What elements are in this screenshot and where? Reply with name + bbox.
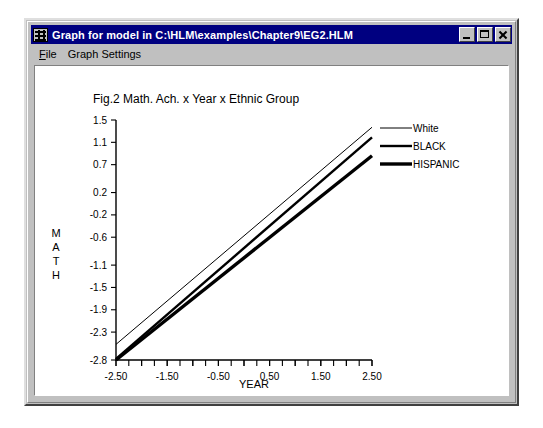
- chart: Fig.2 Math. Ach. x Year x Ethnic Group M…: [35, 66, 508, 395]
- y-tick-label: -1.9: [90, 304, 108, 315]
- series-line-white: [116, 127, 372, 344]
- window-inner-frame: Graph for model in C:\HLM\examples\Chapt…: [27, 21, 516, 403]
- graph-window: Graph for model in C:\HLM\examples\Chapt…: [24, 18, 519, 406]
- y-tick-label: -2.3: [90, 327, 108, 338]
- y-tick-label: 0.7: [93, 159, 107, 170]
- y-tick-label: -1.1: [90, 260, 108, 271]
- x-tick-label: -0.50: [207, 371, 230, 382]
- x-tick-label: 1.50: [311, 371, 331, 382]
- legend-label-black: BLACK: [413, 141, 446, 152]
- y-tick-label: -0.6: [90, 232, 108, 243]
- series-lines: [116, 127, 372, 360]
- window-title: Graph for model in C:\HLM\examples\Chapt…: [52, 29, 459, 41]
- series-line-black: [116, 137, 372, 359]
- chart-grid-icon: [33, 28, 48, 42]
- x-axis-title: YEAR: [239, 378, 269, 390]
- series-line-hispanic: [116, 156, 372, 360]
- y-tick-label: -2.8: [90, 355, 108, 366]
- x-tick-label: -1.50: [156, 371, 179, 382]
- axes: [116, 120, 372, 360]
- y-tick-label: 1.1: [93, 137, 107, 148]
- maximize-button[interactable]: [477, 27, 493, 42]
- menu-bar: File Graph Settings: [31, 45, 512, 63]
- legend-label-white: White: [413, 123, 439, 134]
- legend-label-hispanic: HISPANIC: [413, 159, 460, 170]
- minimize-icon: [463, 37, 470, 39]
- x-tick-label: -2.50: [105, 371, 128, 382]
- legend: WhiteBLACKHISPANIC: [380, 123, 460, 170]
- y-tick-label: 0.2: [93, 187, 107, 198]
- close-button[interactable]: [495, 27, 511, 42]
- window-buttons: [459, 27, 511, 42]
- x-tick-label: 2.50: [362, 371, 382, 382]
- y-axis-ticks: 1.51.10.70.2-0.2-0.6-1.1-1.5-1.9-2.3-2.8: [90, 115, 116, 366]
- title-bar[interactable]: Graph for model in C:\HLM\examples\Chapt…: [31, 25, 512, 44]
- chart-canvas: 1.51.10.70.2-0.2-0.6-1.1-1.5-1.9-2.3-2.8…: [35, 66, 509, 396]
- y-tick-label: 1.5: [93, 115, 107, 126]
- minimize-button[interactable]: [459, 27, 475, 42]
- y-tick-label: -0.2: [90, 209, 108, 220]
- y-tick-label: -1.5: [90, 282, 108, 293]
- maximize-icon: [480, 30, 489, 38]
- chart-client-area: Fig.2 Math. Ach. x Year x Ethnic Group M…: [34, 65, 509, 396]
- menu-item-graph-settings[interactable]: Graph Settings: [64, 46, 148, 62]
- menu-item-file[interactable]: File: [35, 46, 64, 62]
